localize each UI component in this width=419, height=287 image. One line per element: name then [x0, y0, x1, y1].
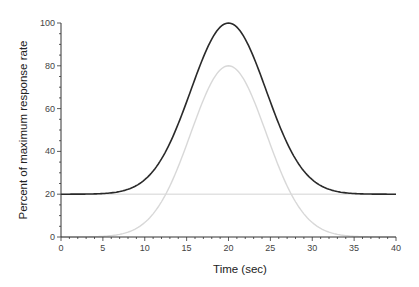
- y-axis-title: Percent of maximum response rate: [17, 41, 29, 220]
- x-tick-label: 10: [140, 243, 150, 253]
- series-line-stimulus-evoked-component: [61, 66, 396, 237]
- y-tick-label: 60: [45, 104, 55, 114]
- x-tick-label: 5: [100, 243, 105, 253]
- plot-area: [61, 23, 396, 237]
- y-tick-label: 20: [45, 189, 55, 199]
- series-line-total-response: [61, 23, 396, 194]
- x-tick-label: 0: [58, 243, 63, 253]
- x-tick-label: 25: [265, 243, 275, 253]
- x-axis-title: Time (sec): [213, 263, 267, 275]
- y-tick-label: 100: [40, 18, 55, 28]
- chart: 0510152025303540 020406080100 Time (sec)…: [0, 0, 419, 287]
- x-tick-label: 35: [349, 243, 359, 253]
- x-axis: 0510152025303540: [58, 237, 401, 253]
- x-tick-label: 20: [223, 243, 233, 253]
- x-tick-label: 30: [307, 243, 317, 253]
- x-tick-label: 15: [182, 243, 192, 253]
- y-tick-label: 0: [50, 232, 55, 242]
- x-tick-label: 40: [391, 243, 401, 253]
- y-axis: 020406080100: [40, 18, 61, 242]
- y-tick-label: 40: [45, 146, 55, 156]
- y-tick-label: 80: [45, 61, 55, 71]
